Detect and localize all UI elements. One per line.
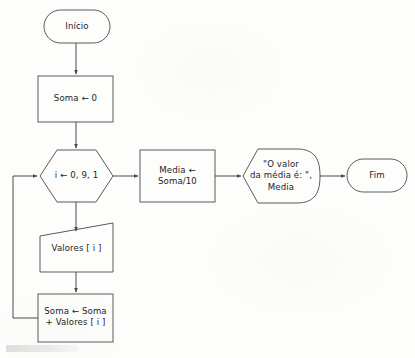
init-sum-shape: [38, 76, 113, 122]
output-line-2: da média é: ",: [245, 170, 317, 181]
end-shape: [347, 159, 407, 192]
edge-accumulate-to-loop: [13, 176, 38, 318]
mean-line-1: Media ←: [140, 165, 215, 176]
output-line-3: Media: [245, 182, 317, 193]
mean-line-2: Soma/10: [140, 176, 215, 187]
accumulate-label: Soma ← Soma + Valores [ i ]: [38, 306, 113, 329]
start-shape: [44, 10, 110, 43]
output-line-1: "O valor: [245, 159, 317, 170]
output-label: "O valor da média é: ", Media: [245, 159, 317, 193]
loop-shape: [40, 150, 113, 202]
accumulate-line-1: Soma ← Soma: [38, 306, 113, 317]
accumulate-line-2: + Valores [ i ]: [38, 317, 113, 328]
flowchart-canvas: Início Soma ← 0 i ← 0, 9, 1 Valores [ i …: [0, 0, 415, 358]
mean-label: Media ← Soma/10: [140, 165, 215, 188]
